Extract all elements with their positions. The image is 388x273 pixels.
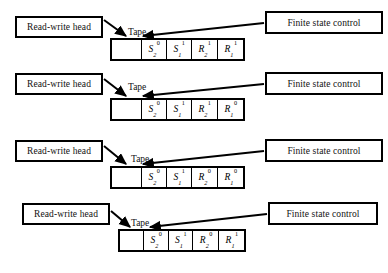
symbol-superscript: 0 xyxy=(157,99,160,106)
symbol-subscript: 1 xyxy=(178,179,181,186)
symbol-superscript: 1 xyxy=(183,230,186,237)
symbol-superscript: 1 xyxy=(182,39,185,46)
tape-cell: R10 xyxy=(218,168,243,187)
symbol-superscript: 1 xyxy=(208,99,211,106)
read-write-head-box-4: Read-write head xyxy=(22,203,110,225)
symbol-base: R xyxy=(200,235,206,245)
tape-cell: S11 xyxy=(167,100,192,119)
symbol-superscript: 1 xyxy=(234,39,237,46)
finite-state-control-label-2: Finite state control xyxy=(287,79,360,89)
tape-cell: R10 xyxy=(218,100,243,119)
tape-cell: S11 xyxy=(167,168,192,187)
tape-symbol: R20 xyxy=(200,234,212,247)
tape-cell: S20 xyxy=(142,100,167,119)
tape-symbol: S11 xyxy=(173,103,184,116)
tape-caption-2: Tape xyxy=(128,82,146,92)
finite-state-control-box-1: Finite state control xyxy=(265,11,383,34)
read-write-head-label-3: Read-write head xyxy=(27,146,91,156)
tape-cell: R20 xyxy=(193,231,219,250)
symbol-subscript: 1 xyxy=(230,51,233,58)
tape-symbol: R20 xyxy=(198,171,210,184)
figure-canvas: Read-write head Finite state control Tap… xyxy=(0,0,388,273)
symbol-superscript: 1 xyxy=(182,99,185,106)
tape-symbol: R11 xyxy=(224,43,236,56)
read-write-head-box-2: Read-write head xyxy=(15,73,103,95)
tape-1: S20 S11 R21 R11 xyxy=(110,38,245,61)
symbol-subscript: 2 xyxy=(204,111,207,118)
tape-cell: S11 xyxy=(167,40,192,59)
symbol-superscript: 1 xyxy=(208,39,211,46)
head-pointer-arrow-2 xyxy=(104,79,126,96)
symbol-subscript: 2 xyxy=(153,51,156,58)
symbol-subscript: 2 xyxy=(153,179,156,186)
symbol-subscript: 1 xyxy=(178,51,181,58)
symbol-subscript: 1 xyxy=(231,242,234,249)
finite-state-control-box-4: Finite state control xyxy=(268,202,378,225)
tape-cell-blank xyxy=(112,100,142,119)
symbol-subscript: 1 xyxy=(180,242,183,249)
symbol-superscript: 0 xyxy=(157,167,160,174)
head-pointer-arrow-3 xyxy=(104,146,126,164)
tape-cell-blank xyxy=(120,231,144,250)
finite-state-control-label-3: Finite state control xyxy=(287,146,360,156)
control-pointer-arrow-2 xyxy=(143,84,264,96)
tape-symbol: S20 xyxy=(149,103,160,116)
tape-3: S20 S11 R20 R10 xyxy=(110,166,245,189)
tape-cell: R21 xyxy=(192,100,218,119)
tape-cell-blank xyxy=(112,40,142,59)
symbol-superscript: 0 xyxy=(208,167,211,174)
finite-state-control-label-4: Finite state control xyxy=(286,209,359,219)
head-pointer-arrow-1 xyxy=(104,20,126,36)
tape-cell: R20 xyxy=(192,168,218,187)
symbol-subscript: 2 xyxy=(204,179,207,186)
tape-caption-1: Tape xyxy=(128,27,146,37)
tape-symbol: S11 xyxy=(173,43,184,56)
symbol-subscript: 2 xyxy=(204,51,207,58)
tape-caption-3: Tape xyxy=(131,154,149,164)
finite-state-control-box-3: Finite state control xyxy=(265,139,383,162)
control-pointer-arrow-4 xyxy=(150,214,267,227)
tape-cell: R21 xyxy=(192,40,218,59)
read-write-head-box-1: Read-write head xyxy=(15,16,103,38)
symbol-subscript: 2 xyxy=(155,242,158,249)
symbol-subscript: 1 xyxy=(178,111,181,118)
tape-4: S20 S11 R20 R11 xyxy=(118,229,246,252)
head-pointer-arrow-4 xyxy=(111,211,130,227)
symbol-subscript: 2 xyxy=(153,111,156,118)
read-write-head-box-3: Read-write head xyxy=(15,140,103,162)
symbol-superscript: 0 xyxy=(234,99,237,106)
tape-cell-blank xyxy=(112,168,142,187)
finite-state-control-box-2: Finite state control xyxy=(265,72,383,95)
symbol-superscript: 0 xyxy=(157,39,160,46)
symbol-subscript: 1 xyxy=(230,111,233,118)
tape-caption-4: Tape xyxy=(131,218,149,228)
tape-cell: R11 xyxy=(218,40,243,59)
tape-symbol: R21 xyxy=(198,103,210,116)
tape-symbol: S20 xyxy=(149,171,160,184)
symbol-superscript: 0 xyxy=(209,230,212,237)
read-write-head-label-2: Read-write head xyxy=(27,79,91,89)
symbol-superscript: 0 xyxy=(234,167,237,174)
tape-symbol: S11 xyxy=(175,234,186,247)
tape-symbol: S20 xyxy=(149,43,160,56)
tape-cell: S20 xyxy=(142,40,167,59)
tape-symbol: R21 xyxy=(198,43,210,56)
tape-cell: S11 xyxy=(169,231,194,250)
tape-symbol: R10 xyxy=(224,171,236,184)
symbol-superscript: 1 xyxy=(235,230,238,237)
tape-cell: S20 xyxy=(144,231,169,250)
control-pointer-arrow-1 xyxy=(143,23,264,36)
symbol-subscript: 1 xyxy=(230,179,233,186)
tape-symbol: S11 xyxy=(173,171,184,184)
symbol-subscript: 2 xyxy=(206,242,209,249)
tape-symbol: R11 xyxy=(226,234,238,247)
control-pointer-arrow-3 xyxy=(143,151,264,164)
tape-cell: R11 xyxy=(219,231,244,250)
symbol-superscript: 1 xyxy=(182,167,185,174)
read-write-head-label-1: Read-write head xyxy=(27,22,91,32)
tape-symbol: R10 xyxy=(224,103,236,116)
tape-symbol: S20 xyxy=(150,234,161,247)
tape-2: S20 S11 R21 R10 xyxy=(110,98,245,121)
symbol-superscript: 0 xyxy=(159,230,162,237)
tape-cell: S20 xyxy=(142,168,167,187)
